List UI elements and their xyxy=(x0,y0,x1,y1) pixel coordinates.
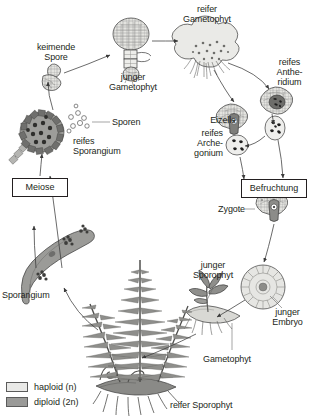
label-reifes-sporangium: reifes Sporangium xyxy=(73,136,121,156)
mature-gametophyte-figure xyxy=(172,16,239,79)
released-spores-figure xyxy=(67,104,89,133)
label-junger-sporophyt: junger Sporophyt xyxy=(180,260,246,280)
arrow-gametophyte-to-antheridium xyxy=(228,63,269,89)
arrow-zygote-to-embryo xyxy=(264,224,274,262)
label-reifer-sporophyt: reifer Sporophyt xyxy=(170,400,232,410)
arrow-sperm-to-fertilization xyxy=(278,140,283,178)
mature-antheridium-figure xyxy=(260,87,292,140)
legend-label-haploid: haploid (n) xyxy=(34,382,77,392)
label-befruchtung: Befruchtung xyxy=(241,179,307,198)
mature-sporangium-figure xyxy=(9,110,64,165)
young-embryo-figure xyxy=(241,265,285,309)
arrow-gametophyte-to-archegonium xyxy=(214,70,234,102)
legend-label-diploid: diploid (2n) xyxy=(34,397,79,407)
arrow-meiosis-to-sporangium xyxy=(40,154,42,176)
label-zygote: Zygote xyxy=(203,204,245,214)
label-junger-embryo: junger Embryo xyxy=(264,307,311,327)
label-reifes-antheridium: reifes Anthe- ridium xyxy=(268,57,311,88)
label-sporen: Sporen xyxy=(112,117,140,127)
label-junger-gametophyt: junger Gametophyt xyxy=(98,72,168,92)
label-keimende-spore: keimende Spore xyxy=(26,42,86,62)
fern-life-cycle-diagram: keimende Spore junger Gametophyt reifer … xyxy=(0,0,311,419)
label-meiose: Meiose xyxy=(12,178,68,197)
germinating-spore-figure xyxy=(42,64,61,91)
label-gametophyt: Gametophyt xyxy=(203,354,251,364)
mature-sporophyte-fern-figure xyxy=(82,260,192,416)
arrow-archegonium-to-fertilization xyxy=(240,157,244,179)
legend: haploid (n) diploid (2n) xyxy=(6,382,79,412)
legend-swatch-diploid xyxy=(6,397,28,407)
label-reifes-archegonium: reifes Arche- gonium xyxy=(178,128,223,159)
legend-item-haploid: haploid (n) xyxy=(6,382,79,392)
legend-swatch-haploid xyxy=(6,382,28,392)
legend-item-diploid: diploid (2n) xyxy=(6,397,79,407)
label-eizelle: Eizelle xyxy=(186,115,236,125)
label-reifer-gametophyt: reifer Gametophyt xyxy=(170,4,244,24)
label-sporangium: Sporangium xyxy=(2,290,50,300)
diagram-artwork xyxy=(0,0,311,419)
